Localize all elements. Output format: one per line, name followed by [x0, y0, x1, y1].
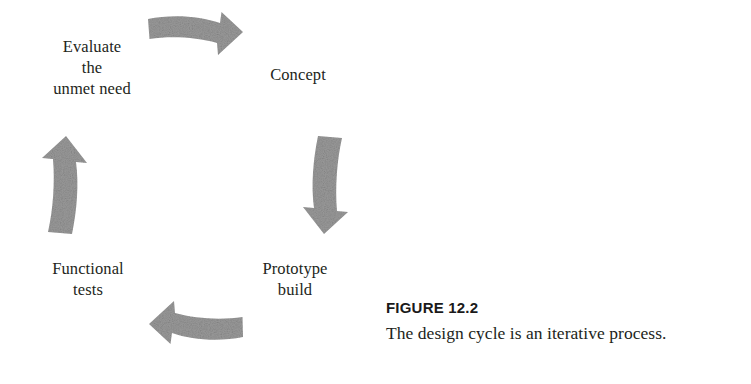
cycle-arrow-right-down-direction	[300, 134, 362, 236]
cycle-stage-prototype-line-1: Prototype	[235, 258, 355, 279]
cycle-stage-prototype: Prototype build	[235, 258, 355, 300]
cycle-stage-evaluate-line-3: unmet need	[18, 78, 166, 99]
cycle-arrow-left-up-direction	[28, 134, 90, 236]
cycle-stage-functional-line-2: tests	[18, 279, 158, 300]
design-cycle-figure: Evaluate the unmet need Concept Prototyp…	[0, 0, 751, 384]
cycle-stage-functional: Functional tests	[18, 258, 158, 300]
cycle-stage-evaluate-line-2: the	[18, 57, 166, 78]
figure-caption-text: The design cycle is an iterative process…	[386, 321, 746, 345]
cycle-stage-prototype-line-2: build	[235, 279, 355, 300]
cycle-stage-concept: Concept	[243, 64, 353, 85]
cycle-stage-evaluate: Evaluate the unmet need	[18, 36, 166, 99]
cycle-stage-functional-line-1: Functional	[18, 258, 158, 279]
cycle-stage-concept-line-1: Concept	[243, 64, 353, 85]
figure-caption-title: FIGURE 12.2	[386, 298, 746, 318]
cycle-stage-evaluate-line-1: Evaluate	[18, 36, 166, 57]
cycle-arrow-bottom-left-direction	[146, 298, 246, 346]
cycle-arrow-top-right-direction	[146, 10, 246, 58]
figure-caption: FIGURE 12.2 The design cycle is an itera…	[386, 298, 746, 345]
